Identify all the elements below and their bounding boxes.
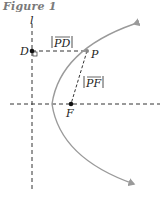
label-pf-length: PF xyxy=(84,76,103,90)
point-f xyxy=(69,102,74,107)
svg-text:PF: PF xyxy=(85,77,101,90)
point-p xyxy=(85,49,89,53)
label-d: D xyxy=(19,45,29,58)
label-f: F xyxy=(65,107,74,120)
segment-pf xyxy=(71,51,87,104)
label-p: P xyxy=(90,48,99,61)
label-pd-length: PD xyxy=(52,36,72,50)
label-directrix: l xyxy=(30,14,34,27)
parabola-diagram: l D P F PD PF xyxy=(0,0,165,201)
svg-text:PD: PD xyxy=(53,37,70,50)
point-d xyxy=(30,49,35,54)
